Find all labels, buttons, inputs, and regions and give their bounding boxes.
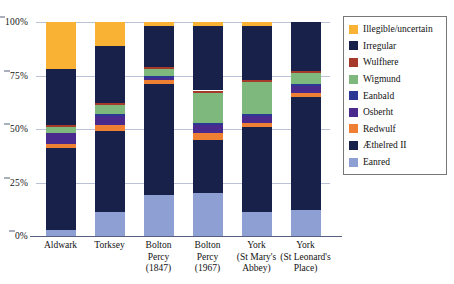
- bar-segment[interactable]: [291, 73, 321, 84]
- bar-segment[interactable]: [46, 125, 76, 127]
- bar-segment[interactable]: [144, 69, 174, 75]
- bar-segment[interactable]: [242, 127, 272, 213]
- legend-item[interactable]: Eanbald: [349, 87, 442, 104]
- bar-segment[interactable]: [242, 82, 272, 114]
- bar-segment[interactable]: [291, 84, 321, 86]
- bar-segment[interactable]: [144, 84, 174, 195]
- legend-item[interactable]: Irregular: [349, 38, 442, 55]
- bar-segment[interactable]: [291, 86, 321, 92]
- bar-segment[interactable]: [291, 97, 321, 210]
- legend-item-label: Redwulf: [363, 124, 396, 134]
- bar-segment[interactable]: [46, 148, 76, 229]
- y-axis-tick-mark: [9, 231, 15, 232]
- bar-segment[interactable]: [95, 103, 125, 105]
- stacked-bar-chart: 0%25%50%75%100% AldwarkTorkseyBoltonPerc…: [0, 0, 454, 284]
- bar-segment[interactable]: [242, 212, 272, 236]
- y-axis-tick-label: 25%: [10, 178, 36, 188]
- y-axis-tick-label: 75%: [10, 71, 36, 81]
- y-axis-tick-mark: [4, 70, 10, 71]
- legend: Illegible/uncertainIrregularWulfhereWigm…: [343, 16, 447, 175]
- x-axis-label-line: York: [277, 240, 334, 252]
- legend-item-label: Eanred: [363, 157, 390, 167]
- bar-segment[interactable]: [95, 22, 125, 46]
- legend-item-label: Illegible/uncertain: [363, 24, 433, 34]
- legend-swatch-icon: [349, 124, 358, 133]
- legend-item-label: Wulfhere: [363, 57, 399, 67]
- bar-column[interactable]: [193, 22, 223, 236]
- bar-stack: [193, 22, 223, 236]
- legend-item[interactable]: Æthelred II: [349, 137, 442, 154]
- bar-column[interactable]: [144, 22, 174, 236]
- bar-stack: [242, 22, 272, 236]
- bar-stack: [46, 22, 76, 236]
- legend-swatch-icon: [349, 75, 358, 84]
- bar-segment[interactable]: [95, 125, 125, 131]
- bar-segment[interactable]: [144, 67, 174, 69]
- legend-item[interactable]: Illegible/uncertain: [349, 21, 442, 38]
- bar-segment[interactable]: [46, 127, 76, 133]
- y-axis-tick-mark: [0, 17, 5, 18]
- bar-segment[interactable]: [46, 133, 76, 144]
- bar-segment[interactable]: [95, 46, 125, 104]
- bar-segment[interactable]: [193, 193, 223, 236]
- legend-item-label: Irregular: [363, 41, 396, 51]
- bar-column[interactable]: [95, 22, 125, 236]
- bar-segment[interactable]: [95, 212, 125, 236]
- bar-segment[interactable]: [46, 22, 76, 69]
- bar-segment[interactable]: [242, 22, 272, 26]
- bar-segment[interactable]: [144, 80, 174, 84]
- legend-swatch-icon: [349, 25, 358, 34]
- y-axis-tick-mark: [4, 177, 10, 178]
- legend-item-label: Eanbald: [363, 91, 394, 101]
- bar-segment[interactable]: [46, 69, 76, 125]
- legend-swatch-icon: [349, 91, 358, 100]
- y-axis-tick-label: 100%: [5, 17, 36, 27]
- legend-swatch-icon: [349, 41, 358, 50]
- bar-segment[interactable]: [95, 116, 125, 125]
- bar-segment[interactable]: [193, 93, 223, 123]
- bar-segment[interactable]: [242, 123, 272, 127]
- bar-segment[interactable]: [193, 123, 223, 125]
- legend-swatch-icon: [349, 158, 358, 167]
- bar-segment[interactable]: [193, 133, 223, 139]
- bar-segment[interactable]: [144, 76, 174, 78]
- bar-segment[interactable]: [242, 116, 272, 122]
- bar-segment[interactable]: [46, 144, 76, 148]
- bar-segment[interactable]: [193, 140, 223, 194]
- bar-segment[interactable]: [193, 22, 223, 26]
- bar-segment[interactable]: [291, 210, 321, 236]
- legend-item[interactable]: Wigmund: [349, 71, 442, 88]
- bar-segment[interactable]: [193, 91, 223, 93]
- legend-item[interactable]: Eanred: [349, 154, 442, 171]
- legend-item[interactable]: Osberht: [349, 104, 442, 121]
- bar-segment[interactable]: [144, 195, 174, 236]
- x-axis-line: [30, 236, 342, 237]
- bar-segment[interactable]: [291, 22, 321, 71]
- legend-item-label: Wigmund: [363, 74, 401, 84]
- legend-swatch-icon: [349, 58, 358, 67]
- bar-segment[interactable]: [291, 71, 321, 73]
- bar-column[interactable]: [291, 22, 321, 236]
- x-axis-label: York(St Leonard'sPlace): [277, 240, 334, 275]
- bar-group: [36, 22, 330, 236]
- bar-column[interactable]: [242, 22, 272, 236]
- bar-segment[interactable]: [144, 78, 174, 80]
- bar-segment[interactable]: [144, 22, 174, 26]
- legend-item[interactable]: Wulfhere: [349, 54, 442, 71]
- bar-segment[interactable]: [193, 26, 223, 90]
- bar-segment[interactable]: [242, 114, 272, 116]
- x-axis-label-line: Place): [277, 263, 334, 275]
- bar-stack: [144, 22, 174, 236]
- legend-swatch-icon: [349, 141, 358, 150]
- bar-segment[interactable]: [242, 26, 272, 80]
- bar-column[interactable]: [46, 22, 76, 236]
- bar-segment[interactable]: [95, 114, 125, 116]
- bar-segment[interactable]: [144, 26, 174, 67]
- bar-segment[interactable]: [291, 93, 321, 97]
- legend-item-label: Osberht: [363, 107, 393, 117]
- legend-item[interactable]: Redwulf: [349, 121, 442, 138]
- bar-segment[interactable]: [193, 125, 223, 134]
- bar-segment[interactable]: [95, 131, 125, 212]
- bar-segment[interactable]: [95, 105, 125, 114]
- bar-segment[interactable]: [242, 80, 272, 82]
